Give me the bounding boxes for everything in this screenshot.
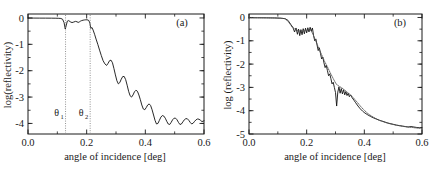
panel-a-ytick-label: -3 <box>15 92 24 103</box>
panel-b-ytick-label: -1 <box>236 35 245 46</box>
panel-b-ytick-label: -5 <box>236 129 245 140</box>
panel-a-xtick-label: 0.0 <box>21 137 34 148</box>
panel-a-ytick-label: -4 <box>15 118 24 129</box>
panel-a-xtick-label: 0.6 <box>197 137 210 148</box>
panel-b-xtick-label: 0.4 <box>358 137 372 148</box>
panel-b-ytick-label: -3 <box>236 82 245 93</box>
panel-a-ytick-label: 0 <box>19 13 24 24</box>
panel-b-xtick-label: 0.6 <box>415 137 428 148</box>
panel-b-ytick-label: 0 <box>240 12 245 23</box>
panel-b-ytick-label: -4 <box>236 105 245 116</box>
reflectivity-figure: 0.00.20.40.60-1-2-3-4 θ1θ2 (a) angle of … <box>0 0 439 175</box>
panel-b-ytick-label: -2 <box>236 59 245 70</box>
panel-b-xlabel: angle of incidence [deg] <box>284 151 386 162</box>
panel-b-svg: 0.00.20.40.60-1-2-3-4-5 (b) angle of inc… <box>219 0 439 175</box>
panel-b-curve-measured <box>249 18 422 128</box>
panel-a-ytick-label: -1 <box>15 39 24 50</box>
panel-a-theta2-subscript: 2 <box>85 113 88 120</box>
panel-a-xlabel: angle of incidence [deg] <box>64 151 166 162</box>
panel-a-tag: (a) <box>176 17 188 29</box>
panel-a-theta2-label: θ <box>79 107 84 118</box>
panel-b-xtick-label: 0.2 <box>300 137 313 148</box>
panel-a-theta1-label: θ <box>54 107 59 118</box>
panel-a-ytick-label: -2 <box>15 65 24 76</box>
panel-a-ylabel: log(reflectivity) <box>2 41 14 108</box>
panel-a: 0.00.20.40.60-1-2-3-4 θ1θ2 (a) angle of … <box>0 0 220 175</box>
panel-b: 0.00.20.40.60-1-2-3-4-5 (b) angle of inc… <box>219 0 439 175</box>
panel-a-xtick-label: 0.4 <box>139 137 153 148</box>
panel-b-curve-fit <box>249 18 422 129</box>
panel-b-ylabel: log (reflectivity) <box>222 40 234 110</box>
panel-a-xtick-label: 0.2 <box>80 137 93 148</box>
panel-b-tag: (b) <box>394 17 407 29</box>
panel-a-svg: 0.00.20.40.60-1-2-3-4 θ1θ2 (a) angle of … <box>0 0 220 175</box>
panel-a-theta1-subscript: 1 <box>60 113 63 120</box>
